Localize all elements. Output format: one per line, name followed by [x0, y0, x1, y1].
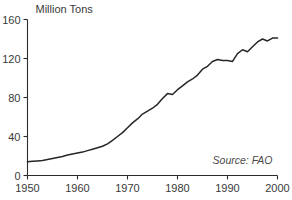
- x-tick-label: 1950: [15, 182, 39, 194]
- y-tick-label: 40: [8, 131, 20, 143]
- chart-title: Million Tons: [36, 3, 94, 15]
- data-series-line: [28, 38, 278, 162]
- y-tick-label: 80: [8, 92, 20, 104]
- y-tick-label: 0: [14, 170, 20, 182]
- chart-container: Million Tons0408012016019501960197019801…: [0, 0, 292, 200]
- y-tick-label: 160: [2, 14, 20, 26]
- x-tick-label: 1960: [65, 182, 89, 194]
- x-tick-label: 1970: [115, 182, 139, 194]
- line-chart: Million Tons0408012016019501960197019801…: [0, 0, 292, 200]
- source-annotation: Source: FAO: [213, 154, 273, 166]
- y-tick-label: 120: [2, 53, 20, 65]
- x-tick-label: 1980: [165, 182, 189, 194]
- x-tick-label: 2000: [265, 182, 289, 194]
- x-tick-label: 1990: [215, 182, 239, 194]
